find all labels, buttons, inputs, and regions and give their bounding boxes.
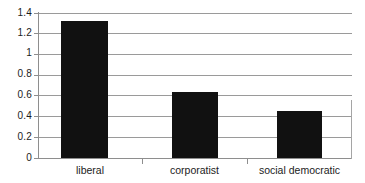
y-tick-label: 1.4: [2, 8, 32, 18]
x-category-label-liberal: liberal: [38, 164, 142, 177]
plot-right-border-stub: [351, 100, 352, 159]
y-tick-label: 1: [2, 48, 32, 58]
y-tick-label: 0.4: [2, 111, 32, 121]
y-tick-label: 1.2: [2, 28, 32, 38]
plot-area: [38, 13, 352, 158]
y-axis-line: [38, 12, 39, 159]
y-tick-label: 0.6: [2, 90, 32, 100]
bar-chart: 1.4 1.2 1 0.8 0.6 0.4 0.2 0 liberal corp…: [0, 0, 365, 183]
bar-corporatist: [172, 92, 218, 158]
bar-social-democratic: [277, 111, 322, 158]
y-tick-label: 0.2: [2, 132, 32, 142]
x-axis-line: [38, 158, 352, 159]
gridline: [38, 13, 352, 14]
bar-liberal: [61, 21, 108, 158]
x-category-label-corporatist: corporatist: [142, 164, 247, 177]
y-axis-labels: 1.4 1.2 1 0.8 0.6 0.4 0.2 0: [0, 0, 32, 183]
x-category-label-social-democratic: social democratic: [247, 164, 352, 177]
y-tick-label: 0.8: [2, 69, 32, 79]
y-tick-label: 0: [2, 153, 32, 163]
